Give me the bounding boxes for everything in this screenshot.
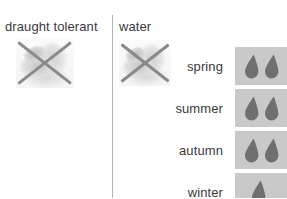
column-divider: [112, 15, 113, 198]
season-row-winter: winter: [119, 173, 287, 198]
water-level-tile: [235, 47, 287, 85]
season-row-summer: summer: [119, 89, 287, 127]
water-droplet-icon: [251, 180, 266, 199]
season-row-spring: spring: [119, 47, 287, 85]
droplet-group: [235, 173, 287, 198]
water-droplet-icon: [244, 138, 259, 163]
plant-care-info-panel: draught tolerant water springsummerautum…: [0, 0, 287, 198]
season-label: autumn: [119, 143, 235, 158]
water-level-tile: [235, 89, 287, 127]
droplet-group: [235, 89, 287, 127]
season-label: winter: [119, 185, 235, 199]
water-droplet-icon: [264, 54, 279, 79]
water-droplet-icon: [244, 96, 259, 121]
season-label: spring: [119, 59, 235, 74]
season-row-autumn: autumn: [119, 131, 287, 169]
water-level-tile: [235, 173, 287, 198]
draught-tolerant-header: draught tolerant: [5, 19, 98, 34]
season-label: summer: [119, 101, 235, 116]
droplet-group: [235, 131, 287, 169]
crossed-out-plant-icon: [16, 38, 74, 88]
water-header: water: [119, 19, 151, 34]
water-droplet-icon: [244, 54, 259, 79]
droplet-group: [235, 47, 287, 85]
water-droplet-icon: [264, 138, 279, 163]
water-level-tile: [235, 131, 287, 169]
water-droplet-icon: [264, 96, 279, 121]
